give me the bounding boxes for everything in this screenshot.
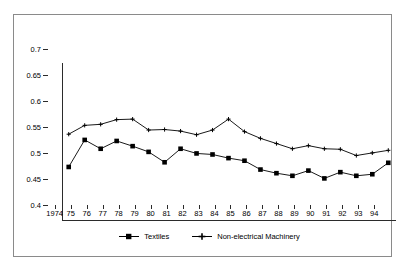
data-point-marker — [114, 139, 119, 144]
legend-square-marker-icon — [118, 232, 140, 241]
data-point-marker — [98, 146, 103, 151]
x-axis-tick — [310, 205, 311, 209]
x-axis-tick — [278, 205, 279, 209]
y-axis-tick-label: 0.65 — [26, 71, 41, 80]
x-axis-tick — [374, 205, 375, 209]
data-point-marker — [66, 165, 71, 170]
x-axis-tick — [246, 205, 247, 209]
y-axis-tick — [43, 101, 48, 102]
x-axis-tick-label: 77 — [98, 209, 106, 218]
x-axis-tick — [135, 205, 136, 209]
x-axis-tick — [342, 205, 343, 209]
y-axis-tick-label: 0.5 — [31, 149, 41, 158]
y-axis-tick-label: 0.45 — [26, 175, 41, 184]
x-axis-tick — [151, 205, 152, 209]
data-point-marker — [194, 151, 199, 156]
x-axis-tick-label: 92 — [338, 209, 346, 218]
data-point-marker — [306, 168, 311, 173]
x-axis-tick-label: 75 — [67, 209, 75, 218]
x-axis-tick-label: 82 — [178, 209, 186, 218]
x-axis-tick-label: 80 — [146, 209, 154, 218]
x-axis-tick — [326, 205, 327, 209]
y-axis-tick — [43, 153, 48, 154]
data-point-marker — [82, 138, 87, 143]
x-axis-tick-label: 90 — [306, 209, 314, 218]
y-axis-tick-label: 0.55 — [26, 123, 41, 132]
x-axis-tick-label: 76 — [82, 209, 90, 218]
x-axis-tick-label: 89 — [290, 209, 298, 218]
data-point-marker — [210, 152, 215, 157]
y-axis-tick — [43, 127, 48, 128]
series-non-electrical-machinery — [67, 117, 391, 158]
legend-plus-marker-icon — [191, 232, 213, 241]
data-point-marker — [338, 170, 343, 175]
data-point-marker — [258, 167, 263, 172]
x-axis-tick — [167, 205, 168, 209]
x-axis-tick-label: 84 — [210, 209, 218, 218]
x-axis-tick — [358, 205, 359, 209]
data-point-marker — [354, 174, 359, 179]
x-axis-tick — [199, 205, 200, 209]
x-axis-tick-label: 81 — [162, 209, 170, 218]
series-textiles — [66, 138, 390, 181]
data-point-marker — [226, 156, 231, 161]
x-axis-tick-label: 86 — [242, 209, 250, 218]
x-axis-tick — [294, 205, 295, 209]
y-axis-tick — [43, 179, 48, 180]
x-axis-tick — [262, 205, 263, 209]
x-axis-tick — [87, 205, 88, 209]
y-axis-tick — [43, 205, 48, 206]
x-axis-tick-label: 88 — [274, 209, 282, 218]
x-axis-tick — [230, 205, 231, 209]
legend-label-textiles: Textiles — [144, 232, 169, 241]
x-axis-tick — [183, 205, 184, 209]
data-point-marker — [162, 160, 167, 165]
x-axis-tick — [215, 205, 216, 209]
data-point-marker — [178, 146, 183, 151]
data-point-marker — [370, 172, 375, 177]
x-axis-tick — [55, 205, 56, 209]
x-axis-tick-label: 91 — [322, 209, 330, 218]
legend-item-non-electrical-machinery: Non-electrical Machinery — [191, 232, 300, 241]
data-point-marker — [130, 144, 135, 149]
y-axis-tick-label: 0.7 — [31, 45, 41, 54]
data-point-marker — [274, 171, 279, 176]
x-axis-tick — [103, 205, 104, 209]
chart-frame — [13, 14, 392, 257]
x-axis-tick-label: 1974 — [46, 209, 63, 218]
x-axis-tick — [71, 205, 72, 209]
chart-legend: Textiles Non-electrical Machinery — [0, 232, 418, 241]
y-axis-tick — [43, 49, 48, 50]
data-point-marker — [146, 150, 151, 155]
x-axis-tick — [119, 205, 120, 209]
x-axis-tick-label: 83 — [194, 209, 202, 218]
y-axis-tick-label: 0.4 — [31, 201, 41, 210]
x-axis-tick-label: 93 — [354, 209, 362, 218]
x-axis-tick-label: 79 — [130, 209, 138, 218]
legend-label-non-electrical-machinery: Non-electrical Machinery — [217, 232, 300, 241]
x-axis-tick-label: 87 — [258, 209, 266, 218]
y-axis-tick-label: 0.6 — [31, 97, 41, 106]
data-point-marker — [242, 158, 247, 163]
x-axis-tick-label: 85 — [226, 209, 234, 218]
data-point-marker — [322, 176, 327, 181]
legend-item-textiles: Textiles — [118, 232, 169, 241]
y-axis-labels: 0.70.650.60.550.50.450.4 — [0, 0, 41, 271]
data-point-marker — [386, 161, 391, 166]
y-axis-tick — [43, 75, 48, 76]
x-axis-tick-label: 94 — [370, 209, 378, 218]
data-point-marker — [290, 174, 295, 179]
x-axis-tick-label: 78 — [114, 209, 122, 218]
